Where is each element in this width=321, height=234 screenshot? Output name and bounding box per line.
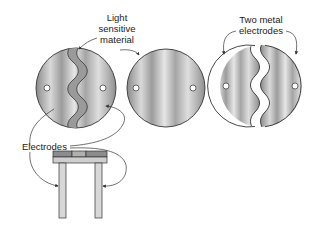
mounting-hole-icon <box>292 83 298 89</box>
two-metal-electrodes-label: Two metal electrodes <box>228 14 294 36</box>
label-line: electrodes <box>228 25 294 36</box>
label-line: Two metal <box>228 14 294 25</box>
cell-cross-section <box>53 151 107 218</box>
label-line: Light <box>88 12 146 23</box>
photoconductive-cell-diagram: Light sensitive material Two metal elect… <box>0 0 321 234</box>
mounting-hole-icon <box>190 85 196 91</box>
label-line: material <box>88 34 146 45</box>
mounting-hole-icon <box>44 85 50 91</box>
left-leg <box>59 163 66 218</box>
mounting-hole-icon <box>100 85 106 91</box>
electrodes-label: Electrodes <box>22 141 67 152</box>
right-leg <box>95 163 102 218</box>
cell-with-light-sensitive-material <box>36 44 116 134</box>
mounting-hole-icon <box>223 83 229 89</box>
light-sensitive-material-label: Light sensitive material <box>88 12 146 45</box>
label-line: sensitive <box>88 23 146 34</box>
mounting-hole-icon <box>133 85 139 91</box>
plain-metal-disc <box>127 49 205 127</box>
leader-line <box>120 50 139 55</box>
